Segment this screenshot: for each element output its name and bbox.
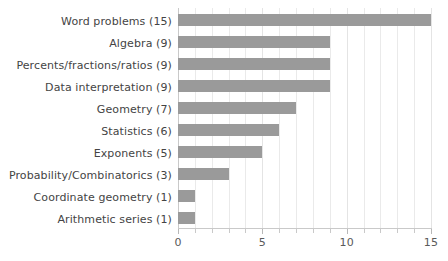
category-labels-group: Word problems (15)Algebra (9)Percents/fr… — [0, 0, 448, 261]
category-label: Algebra (9) — [109, 37, 172, 50]
category-label: Word problems (15) — [61, 15, 172, 28]
category-label: Coordinate geometry (1) — [34, 191, 172, 204]
category-label: Geometry (7) — [97, 103, 172, 116]
category-label: Data interpretation (9) — [45, 81, 172, 94]
category-label: Statistics (6) — [101, 125, 172, 138]
category-label: Arithmetic series (1) — [57, 213, 172, 226]
category-label: Percents/fractions/ratios (9) — [16, 59, 172, 72]
category-label: Exponents (5) — [94, 147, 172, 160]
category-label: Probability/Combinatorics (3) — [9, 169, 172, 182]
bar-chart: 051015 Word problems (15)Algebra (9)Perc… — [0, 0, 448, 261]
